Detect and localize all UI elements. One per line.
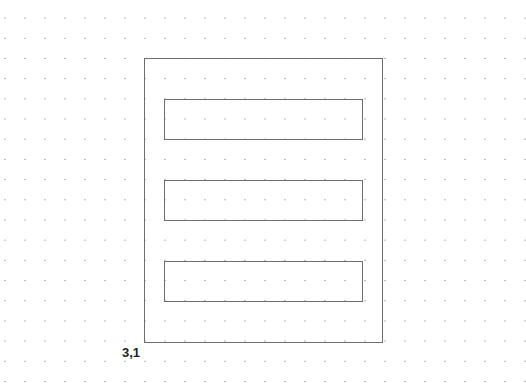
bar-rectangle-1[interactable] [164,99,363,140]
dot-grid-canvas[interactable]: 3,1 [0,0,526,391]
bar-rectangle-3[interactable] [164,261,363,302]
coordinate-label: 3,1 [122,345,140,360]
bar-rectangle-2[interactable] [164,180,363,221]
